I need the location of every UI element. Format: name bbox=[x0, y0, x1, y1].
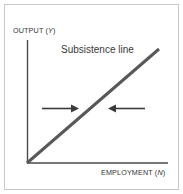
x-axis-label: EMPLOYMENT (N) bbox=[101, 168, 165, 177]
y-axis-label-close: ) bbox=[53, 26, 56, 35]
x-axis-label-close: ) bbox=[163, 168, 166, 177]
x-axis-label-text: EMPLOYMENT ( bbox=[101, 168, 157, 177]
arrow-right-icon bbox=[42, 105, 79, 113]
y-axis-label-text: OUTPUT ( bbox=[13, 26, 48, 35]
subsistence-line-label: Subsistence line bbox=[61, 44, 134, 55]
subsistence-line bbox=[27, 49, 159, 163]
arrow-left-icon bbox=[108, 105, 145, 113]
y-axis-label: OUTPUT (Y) bbox=[13, 26, 56, 35]
figure-container: OUTPUT (Y) EMPLOYMENT (N) Subsistence li… bbox=[0, 0, 183, 194]
